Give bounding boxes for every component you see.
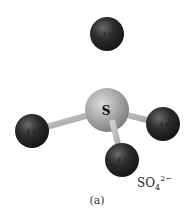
formula-subscript: 4: [155, 183, 160, 192]
chemical-formula: SO42−: [137, 176, 172, 190]
sulfur-label: S: [102, 104, 111, 118]
oxygen-atom-left: O: [15, 114, 49, 148]
sulfur-atom: S: [85, 88, 129, 132]
figure-caption: (a): [0, 194, 194, 207]
formula-charge: 2−: [160, 174, 172, 183]
oxygen-atom-top: O: [90, 17, 124, 51]
oxygen-atom-right: O: [146, 107, 180, 141]
oxygen-label: O: [103, 29, 111, 40]
oxygen-atom-bottom: O: [105, 143, 139, 177]
oxygen-label: O: [27, 126, 35, 137]
oxygen-label: O: [160, 119, 168, 130]
oxygen-label: O: [118, 155, 126, 166]
formula-base: SO: [137, 176, 155, 190]
